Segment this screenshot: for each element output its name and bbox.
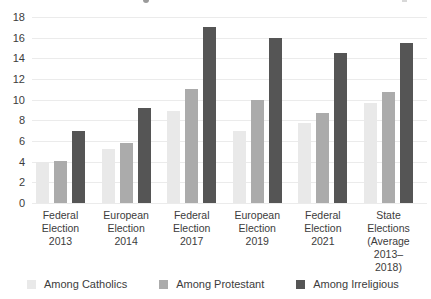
cropped-title-fragment (143, 0, 149, 3)
legend-item-irreligious: Among Irreligious (296, 278, 399, 290)
plot-area (32, 17, 427, 203)
bar-protestant (120, 143, 133, 203)
y-tick-label: 18 (0, 11, 25, 24)
x-axis-label-cell: State Elections (Average 2013–2018) (364, 209, 413, 274)
x-axis-label-cell: Federal Election 2021 (298, 209, 347, 274)
bar-irreligious (334, 53, 347, 203)
bar-protestant (54, 161, 67, 203)
x-axis-label: Federal Election 2013 (42, 209, 79, 274)
bar-group (167, 17, 216, 203)
x-axis-label-cell: European Election 2019 (233, 209, 282, 274)
legend-item-protestant: Among Protestant (159, 278, 264, 290)
bar-irreligious (269, 38, 282, 203)
y-tick-label: 0 (0, 197, 25, 210)
x-axis-label-cell: Federal Election 2013 (36, 209, 85, 274)
bar-groups (32, 17, 427, 203)
bar-group (36, 17, 85, 203)
x-axis-label: European Election 2019 (235, 209, 281, 274)
legend-swatch (27, 280, 36, 289)
bar-protestant (316, 113, 329, 203)
bar-protestant (382, 92, 395, 203)
legend-label: Among Irreligious (313, 278, 399, 290)
legend-item-catholics: Among Catholics (27, 278, 127, 290)
legend-label: Among Protestant (176, 278, 264, 290)
y-tick-label: 16 (0, 32, 25, 45)
bar-irreligious (400, 43, 413, 203)
bar-chart: 024681012141618 Federal Election 2013Eur… (0, 0, 431, 299)
bar-group (102, 17, 151, 203)
bar-group (298, 17, 347, 203)
legend-swatch (159, 280, 168, 289)
cropped-corner-fragment (402, 0, 407, 2)
bar-group (364, 17, 413, 203)
y-tick-label: 8 (0, 114, 25, 127)
y-tick-label: 12 (0, 73, 25, 86)
x-axis-labels: Federal Election 2013European Election 2… (32, 209, 427, 274)
bar-catholics (36, 162, 49, 203)
y-tick-label: 6 (0, 135, 25, 148)
x-axis-label-cell: Federal Election 2017 (167, 209, 216, 274)
bar-catholics (364, 103, 377, 203)
x-axis-label: State Elections (Average 2013–2018) (364, 209, 413, 274)
bar-irreligious (203, 27, 216, 203)
x-axis-label: European Election 2014 (103, 209, 149, 274)
bar-protestant (251, 100, 264, 203)
bar-catholics (233, 131, 246, 203)
gridline (32, 203, 427, 204)
y-tick-label: 10 (0, 94, 25, 107)
legend: Among CatholicsAmong ProtestantAmong Irr… (27, 278, 399, 290)
bar-irreligious (138, 108, 151, 203)
legend-swatch (296, 280, 305, 289)
bar-protestant (185, 89, 198, 203)
x-axis-label: Federal Election 2021 (304, 209, 341, 274)
bar-catholics (298, 123, 311, 203)
x-axis-label-cell: European Election 2014 (102, 209, 151, 274)
bar-catholics (102, 149, 115, 203)
x-axis-label: Federal Election 2017 (173, 209, 210, 274)
bar-group (233, 17, 282, 203)
bar-catholics (167, 111, 180, 203)
y-tick-label: 2 (0, 176, 25, 189)
legend-label: Among Catholics (44, 278, 127, 290)
y-tick-label: 14 (0, 52, 25, 65)
y-tick-label: 4 (0, 156, 25, 169)
bar-irreligious (72, 131, 85, 203)
